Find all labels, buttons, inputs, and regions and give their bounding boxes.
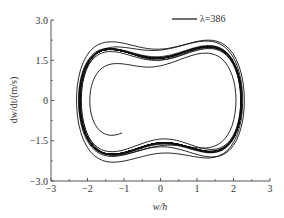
plot-area: [77, 40, 245, 162]
x-tick-label: −2: [82, 183, 93, 194]
trajectory-series: [77, 40, 245, 162]
y-tick-label: 1.5: [36, 55, 49, 66]
x-tick-label: 0: [158, 183, 163, 194]
y-axis-title: dw/dt/(m/s): [8, 77, 20, 124]
y-tick-label: −3.0: [30, 176, 48, 187]
x-tick-label: 2: [231, 183, 236, 194]
x-tick-label: 3: [268, 183, 273, 194]
x-axis-ticks: −3−2−10123: [46, 178, 273, 194]
y-axis-ticks: −3.0−1.501.53.0: [30, 15, 54, 187]
legend: λ=386: [172, 13, 226, 24]
phase-portrait-chart: −3−2−10123 −3.0−1.501.53.0 w/h dw/dt/(m/…: [0, 0, 284, 218]
x-tick-label: −1: [119, 183, 130, 194]
y-tick-label: 3.0: [36, 15, 49, 26]
y-tick-label: 0: [43, 95, 48, 106]
y-tick-label: −1.5: [30, 135, 48, 146]
x-tick-label: 1: [195, 183, 200, 194]
legend-label: λ=386: [200, 13, 226, 24]
x-axis-title: w/h: [153, 201, 167, 212]
